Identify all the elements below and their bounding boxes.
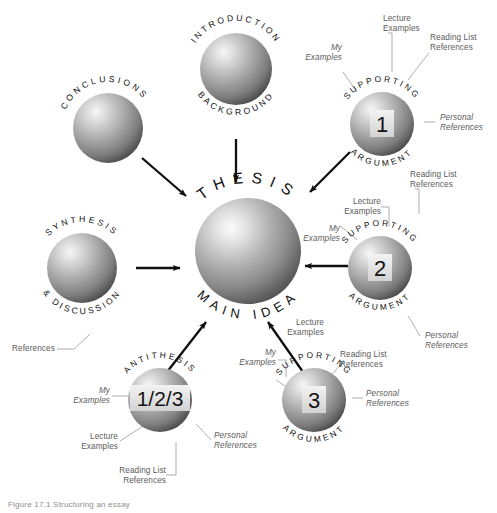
arg2-personal-references-label: PersonalReferences [425,331,483,350]
conclusions-sphere[interactable] [73,93,143,163]
antithesis-personal-references-label: PersonalReferences [214,431,272,450]
arg1-reading-list-label: Reading ListReferences [430,33,494,52]
synthesis-sphere[interactable] [47,233,117,303]
arg2-reading-list-label: Reading ListReferences [410,170,474,189]
arg2-my-examples-label: MyExamples [292,224,340,243]
figure-caption: Figure 17.1 Structuring an essay [8,500,130,509]
antithesis-badge-number: 1/2/3 [137,387,184,410]
essay-structure-diagram: 1 2 3 1/2/3 THESIS MAIN IDEA INTRODUCTIO… [0,0,497,513]
arg1-my-examples-label: MyExamples [294,43,342,62]
introduction-sphere[interactable] [200,33,272,105]
argument2-badge-number: 2 [374,256,386,281]
arg3-my-examples-label: MyExamples [228,348,276,367]
antithesis-reading-list-label: Reading ListReferences [104,466,166,485]
arg2-lecture-examples-label: LectureExamples [325,197,381,216]
thesis-sphere[interactable] [195,198,301,304]
arrow-conclusions-to-thesis [142,158,186,196]
thesis-arc-top: THESIS [194,169,303,203]
antithesis-lecture-examples-label: LectureExamples [56,432,118,451]
arg3-personal-references-label: PersonalReferences [366,389,424,408]
arg1-personal-references-label: PersonalReferences [440,113,496,132]
arg3-reading-list-label: Reading ListReferences [340,350,404,369]
arg1-lecture-examples-label: LectureExamples [383,14,443,33]
argument3-badge-number: 3 [308,388,320,413]
argument1-badge-number: 1 [376,112,388,137]
arrow-argument1-to-thesis [310,152,350,192]
synthesis-references-label: References [12,344,72,354]
antithesis-my-examples-label: MyExamples [62,386,110,405]
arg3-lecture-examples-label: LectureExamples [268,318,324,337]
